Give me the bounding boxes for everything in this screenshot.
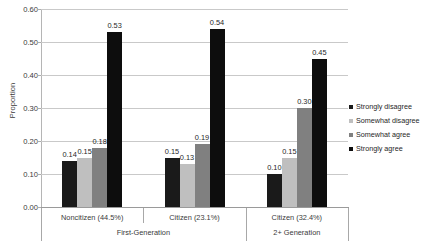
bar-value-label: 0.18: [92, 137, 106, 146]
bar-value-label: 0.10: [267, 163, 281, 172]
legend-item[interactable]: Somewhat agree: [349, 128, 430, 141]
bar-value-label: 0.19: [195, 133, 209, 142]
bar: [107, 32, 122, 207]
y-axis-ticks: 0.000.100.200.300.400.500.60: [0, 0, 38, 246]
category-axis-bound: [348, 208, 349, 241]
bar: [282, 158, 297, 208]
y-tick-label: 0.10: [4, 170, 38, 179]
y-tick-label: 0.40: [4, 71, 38, 80]
legend-item[interactable]: Strongly disagree: [349, 100, 430, 113]
x-axis-categories: Noncitizen (44.5%)Citizen (23.1%)Citizen…: [41, 208, 349, 246]
legend-item[interactable]: Somewhat disagree: [349, 114, 430, 127]
category-group-label: 2+ Generation: [273, 228, 320, 237]
category-separator: [143, 208, 144, 223]
legend-label: Strongly agree: [356, 145, 403, 152]
y-tick-label: 0.00: [4, 203, 38, 212]
legend-label: Somewhat agree: [356, 131, 410, 138]
legend-label: Somewhat disagree: [356, 117, 420, 124]
bar: [165, 158, 180, 208]
bar-value-label: 0.45: [312, 48, 326, 57]
y-tick-label: 0.30: [4, 104, 38, 113]
category-label: Noncitizen (44.5%): [61, 213, 123, 222]
category-label: Citizen (32.4%): [272, 213, 323, 222]
bar: [312, 59, 327, 208]
bar-value-label: 0.13: [180, 153, 194, 162]
y-tick-label: 0.60: [4, 5, 38, 14]
bar-value-label: 0.54: [210, 18, 224, 27]
y-tick-label: 0.50: [4, 38, 38, 47]
bar-value-label: 0.53: [107, 21, 121, 30]
chart-legend: Strongly disagreeSomewhat disagreeSomewh…: [349, 100, 430, 156]
bar: [267, 174, 282, 207]
legend-swatch-icon: [349, 147, 353, 151]
bar: [210, 29, 225, 207]
bar: [297, 108, 312, 207]
category-label: Citizen (23.1%): [169, 213, 220, 222]
bar: [180, 164, 195, 207]
legend-item[interactable]: Strongly agree: [349, 142, 430, 155]
legend-swatch-icon: [349, 105, 353, 109]
bars-layer: 0.140.150.180.530.150.130.190.540.100.15…: [41, 9, 348, 207]
bar: [195, 144, 210, 207]
category-group-separator: [246, 208, 247, 241]
bar-value-label: 0.14: [62, 150, 76, 159]
legend-label: Strongly disagree: [356, 103, 412, 110]
y-tick-label: 0.20: [4, 137, 38, 146]
bar: [77, 158, 92, 208]
bar-value-label: 0.30: [297, 97, 311, 106]
bar-value-label: 0.15: [165, 147, 179, 156]
bar: [92, 148, 107, 207]
bar-value-label: 0.15: [77, 147, 91, 156]
category-group-label: First-Generation: [117, 228, 170, 237]
bar-value-label: 0.15: [282, 147, 296, 156]
bar: [62, 161, 77, 207]
bar-chart: Proportion 0.000.100.200.300.400.500.60 …: [0, 0, 430, 246]
category-axis-bound: [41, 208, 42, 241]
legend-swatch-icon: [349, 133, 353, 137]
legend-swatch-icon: [349, 119, 353, 123]
